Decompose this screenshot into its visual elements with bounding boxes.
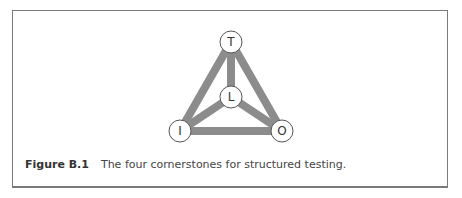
node-t: T	[220, 31, 242, 53]
node-l: L	[220, 86, 242, 108]
svg-text:O: O	[277, 124, 286, 138]
figure-caption: Figure B.1The four cornerstones for stru…	[25, 158, 346, 171]
svg-text:I: I	[178, 124, 182, 138]
node-o: O	[271, 120, 293, 142]
svg-text:L: L	[228, 90, 235, 104]
figure-label: Figure B.1	[25, 158, 89, 171]
figure-caption-text: The four cornerstones for structured tes…	[101, 158, 346, 171]
node-i: I	[169, 120, 191, 142]
svg-text:T: T	[226, 35, 235, 49]
